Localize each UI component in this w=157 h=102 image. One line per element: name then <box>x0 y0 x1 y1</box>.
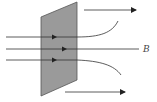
field-diagram: B <box>0 0 157 102</box>
field-line-lower-out <box>77 60 121 75</box>
field-label: B <box>142 44 150 54</box>
field-line-upper-out <box>77 21 118 37</box>
